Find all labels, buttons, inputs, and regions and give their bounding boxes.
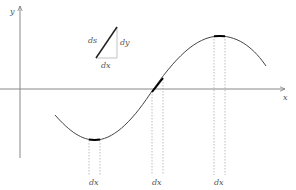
dx-label-mid: dx: [152, 178, 162, 187]
dashed-guides: [89, 36, 225, 175]
axes: y x: [0, 6, 288, 158]
dx-labels: dx dx dx: [89, 178, 224, 187]
differential-triangle: ds dy dx: [88, 27, 130, 70]
triangle-hypotenuse: [96, 27, 117, 58]
dx-label-max: dx: [214, 178, 224, 187]
curve: [55, 36, 266, 140]
ds-label: ds: [88, 36, 97, 45]
x-axis-label: x: [283, 93, 288, 102]
y-axis-label: y: [9, 7, 15, 16]
dx-label-min: dx: [89, 178, 99, 187]
diagram-canvas: y x ds dy dx dx dx dx: [0, 0, 296, 190]
dx-triangle-label: dx: [101, 61, 111, 70]
segment-mid: [152, 78, 163, 92]
highlight-segments: [89, 36, 225, 140]
dy-label: dy: [120, 38, 130, 47]
